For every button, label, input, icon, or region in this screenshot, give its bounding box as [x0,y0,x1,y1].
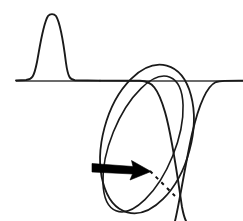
waveform-rotation-diagram [0,0,243,221]
figure-background [0,0,243,221]
figure-canvas [0,0,243,221]
